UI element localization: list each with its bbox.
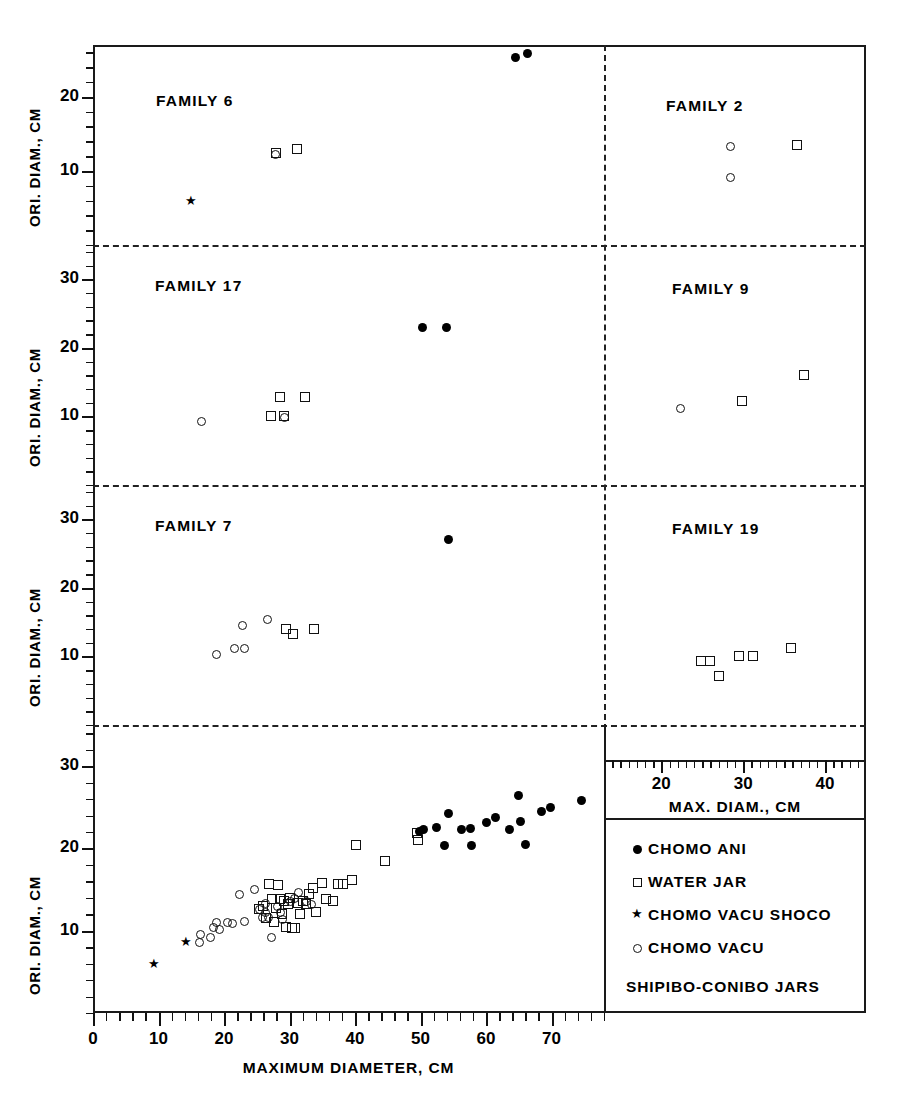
x-tick-minor [237, 1013, 238, 1021]
data-point-filled-circle [537, 807, 546, 816]
x-tick-minor [407, 1013, 408, 1021]
x-tick-minor [368, 1013, 369, 1021]
legend-top-rule [604, 818, 866, 820]
data-point-filled-circle [444, 809, 453, 818]
x-tick-minor [473, 1013, 474, 1021]
x-tick-minor-right [768, 760, 769, 768]
data-point-open-circle [726, 173, 735, 182]
data-point-open-circle [206, 933, 215, 942]
x-tick-minor-right [645, 760, 646, 768]
y-tick-minor [86, 914, 94, 915]
x-tick-minor [316, 1013, 317, 1021]
y-tick-minor [86, 67, 94, 68]
data-point-open-circle [676, 404, 685, 413]
x-tick-minor [119, 1013, 120, 1021]
x-tick-label-right: 40 [816, 774, 835, 794]
y-tick-minor [86, 533, 94, 534]
data-point-open-square [309, 624, 319, 634]
y-tick-minor [86, 560, 94, 561]
data-point-open-square [292, 144, 302, 154]
data-point-open-circle [235, 890, 244, 899]
y-tick-minor [86, 389, 94, 390]
y-tick-minor [86, 711, 94, 712]
column-separator [604, 45, 606, 760]
x-tick-minor [145, 1013, 146, 1021]
x-tick-minor [525, 1013, 526, 1021]
x-tick-major-right [825, 760, 827, 773]
x-tick-minor [604, 1013, 605, 1021]
x-tick-minor-right [809, 760, 810, 768]
y-tick-minor [86, 444, 94, 445]
data-point-open-square [266, 411, 276, 421]
y-axis-title: ORI. DIAM., CM [26, 588, 43, 707]
panel-title: FAMILY 6 [156, 92, 234, 110]
y-tick-minor [86, 293, 94, 294]
data-point-open-square [380, 856, 390, 866]
data-point-star [148, 958, 160, 970]
data-point-open-square [734, 651, 744, 661]
y-tick-minor [86, 230, 94, 231]
data-point-open-circle [250, 885, 259, 894]
y-tick-minor [86, 334, 94, 335]
x-tick-minor [172, 1013, 173, 1021]
x-tick-minor [263, 1013, 264, 1021]
data-point-open-circle [240, 917, 249, 926]
y-tick-major [82, 171, 94, 173]
data-point-open-square [290, 923, 300, 933]
data-point-filled-circle [511, 53, 520, 62]
data-point-open-circle [271, 150, 280, 159]
x-tick-minor-right [735, 760, 736, 768]
figure-caption: SHIPIBO-CONIBO JARS [626, 978, 820, 996]
panel-title: FAMILY 19 [672, 520, 759, 538]
data-point-open-circle [215, 925, 224, 934]
legend-entry: CHOMO VACU [626, 939, 765, 957]
data-point-open-square [413, 835, 423, 845]
x-tick-minor [565, 1013, 566, 1021]
x-tick-major-right [661, 760, 663, 773]
x-tick-minor-right [678, 760, 679, 768]
data-point-open-square [328, 896, 338, 906]
data-point-open-circle [196, 930, 205, 939]
y-tick-minor [86, 670, 94, 671]
data-point-open-circle [240, 644, 249, 653]
x-tick-major [93, 1013, 95, 1026]
x-tick-major-right [743, 760, 745, 773]
y-tick-minor [86, 307, 94, 308]
data-point-open-circle [197, 417, 206, 426]
y-tick-minor [86, 112, 94, 113]
x-tick-label: 70 [542, 1029, 561, 1049]
row-separator-0 [93, 245, 866, 247]
data-point-open-square [311, 907, 321, 917]
data-point-filled-circle [516, 817, 525, 826]
legend-symbol-open-circle [626, 940, 648, 956]
panel-family-2: FAMILY 2 [604, 45, 866, 245]
y-tick-minor [86, 750, 94, 751]
y-tick-minor [86, 964, 94, 965]
x-tick-label: 50 [411, 1029, 430, 1049]
x-tick-minor [342, 1013, 343, 1021]
y-tick-minor [86, 201, 94, 202]
legend-symbol-open-square [626, 874, 648, 890]
x-tick-minor-right [760, 760, 761, 768]
data-point-star [180, 936, 192, 948]
y-tick-minor [86, 156, 94, 157]
x-tick-minor [499, 1013, 500, 1021]
y-tick-minor [86, 506, 94, 507]
data-point-open-circle [726, 142, 735, 151]
x-tick-minor-right [629, 760, 630, 768]
x-tick-label: 20 [215, 1029, 234, 1049]
data-point-filled-circle [457, 825, 466, 834]
data-point-filled-circle [440, 841, 449, 850]
y-tick-major [82, 766, 94, 768]
legend-label: CHOMO VACU [648, 939, 765, 957]
x-tick-minor [198, 1013, 199, 1021]
y-tick-major [82, 588, 94, 590]
panel-title: FAMILY 17 [155, 277, 242, 295]
y-axis-title: ORI. DIAM., CM [26, 108, 43, 227]
panel-family-17: FAMILY 17 [93, 245, 604, 485]
data-point-filled-circle [523, 49, 532, 58]
x-tick-minor-right [719, 760, 720, 768]
data-point-open-circle [228, 919, 237, 928]
y-tick-major [82, 348, 94, 350]
y-tick-minor [86, 643, 94, 644]
